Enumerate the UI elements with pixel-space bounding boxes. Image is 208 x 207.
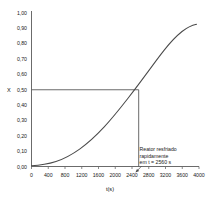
y-axis-tick-labels: 1,00 0,90 0,80 0,70 0,60 0,50 0,40 0,30 … <box>17 10 27 170</box>
y-tick-label: 1,00 <box>17 10 27 16</box>
y-tick-label: 0,80 <box>17 40 27 46</box>
y-tick-label: 0,00 <box>17 164 27 170</box>
x-tick-label: 3200 <box>160 172 172 178</box>
y-tick-label: 0,50 <box>17 87 27 93</box>
x-tick-label: 0 <box>30 172 33 178</box>
x-tick-label: 1200 <box>76 172 88 178</box>
x-tick-label: 800 <box>61 172 70 178</box>
x-axis-tick-labels: 0 400 800 1200 1600 2000 2400 2800 3200 … <box>30 172 205 178</box>
y-tick-label: 0,30 <box>17 117 27 123</box>
y-axis-title: X <box>7 87 11 93</box>
annotation-line-3: em t = 2560 s <box>140 159 172 165</box>
x-tick-label: 2000 <box>109 172 121 178</box>
y-tick-label: 0,90 <box>17 25 27 31</box>
x-tick-label: 4000 <box>193 172 205 178</box>
x-tick-label: 1600 <box>93 172 105 178</box>
x-tick-label: 2400 <box>126 172 138 178</box>
annotation-line-1: Reator resfriado <box>140 146 177 152</box>
y-tick-label: 0,60 <box>17 71 27 77</box>
x-tick-label: 2800 <box>143 172 155 178</box>
y-tick-label: 0,40 <box>17 102 27 108</box>
conversion-curve <box>32 24 197 165</box>
y-tick-label: 0,10 <box>17 148 27 154</box>
y-tick-label: 0,70 <box>17 56 27 62</box>
x-axis-title: t(s) <box>106 186 114 192</box>
x-tick-label: 3600 <box>176 172 188 178</box>
reactor-quench-annotation: Reator resfriado rapidamente em t = 2560… <box>140 146 177 165</box>
annotation-line-2: rapidamente <box>140 153 169 159</box>
y-tick-label: 0,20 <box>17 133 27 139</box>
chart-plot-area: 1,00 0,90 0,80 0,70 0,60 0,50 0,40 0,30 … <box>0 0 208 207</box>
annotation-arrow-icon <box>135 166 141 172</box>
chart-container: 1,00 0,90 0,80 0,70 0,60 0,50 0,40 0,30 … <box>0 0 208 207</box>
x-tick-label: 400 <box>44 172 53 178</box>
